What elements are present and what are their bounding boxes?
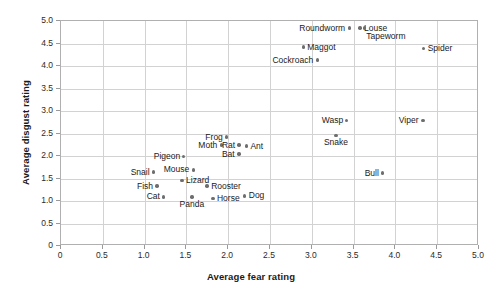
data-point-label: Panda	[180, 200, 205, 209]
data-point-label: Roundworm	[299, 24, 345, 33]
data-point-label: Dog	[249, 191, 265, 200]
data-point-label: Ant	[250, 142, 263, 151]
x-axis-tick-label: 0	[40, 250, 80, 260]
x-axis-tick-mark	[353, 245, 354, 249]
y-axis-tick-label: 2.0	[19, 150, 53, 160]
y-axis-tick-mark	[56, 110, 60, 111]
gridline-horizontal	[61, 44, 477, 45]
y-axis-tick-mark	[56, 245, 60, 246]
y-axis-tick-label: 3.0	[19, 105, 53, 115]
y-axis-tick-mark	[56, 88, 60, 89]
y-axis-tick-mark	[56, 178, 60, 179]
data-point	[316, 58, 319, 61]
x-axis-tick-mark	[436, 245, 437, 249]
y-axis-tick-label: 5.0	[19, 15, 53, 25]
data-point-label: Spider	[428, 44, 453, 53]
gridline-vertical	[354, 21, 355, 244]
data-point-label: Bat	[222, 150, 235, 159]
data-point	[245, 144, 248, 147]
y-axis-tick-label: 1.0	[19, 195, 53, 205]
y-axis-tick-mark	[56, 200, 60, 201]
data-point	[348, 26, 351, 29]
data-point-label: Cat	[147, 192, 160, 201]
x-axis-tick-mark	[311, 245, 312, 249]
data-point	[211, 197, 214, 200]
y-axis-tick-mark	[56, 20, 60, 21]
plot-area	[60, 20, 478, 245]
gridline-horizontal	[61, 156, 477, 157]
y-axis-tick-label: 4.0	[19, 60, 53, 70]
gridline-vertical	[437, 21, 438, 244]
data-point	[237, 152, 240, 155]
gridline-horizontal	[61, 201, 477, 202]
gridline-horizontal	[61, 224, 477, 225]
x-axis-tick-mark	[269, 245, 270, 249]
gridline-vertical	[145, 21, 146, 244]
gridline-vertical	[186, 21, 187, 244]
gridline-horizontal	[61, 134, 477, 135]
x-axis-tick-label: 4.5	[416, 250, 456, 260]
x-axis-tick-label: 2.0	[207, 250, 247, 260]
data-point	[155, 184, 158, 187]
data-point	[358, 26, 361, 29]
gridline-vertical	[103, 21, 104, 244]
data-point-label: Bull	[365, 169, 379, 178]
x-axis-tick-label: 4.0	[374, 250, 414, 260]
x-axis-tick-label: 3.0	[291, 250, 331, 260]
data-point	[237, 143, 240, 146]
x-axis-tick-mark	[227, 245, 228, 249]
x-axis-tick-mark	[478, 245, 479, 249]
y-axis-tick-mark	[56, 43, 60, 44]
data-point-label: Viper	[399, 116, 419, 125]
data-point-label: Wasp	[322, 116, 343, 125]
gridline-horizontal	[61, 66, 477, 67]
x-axis-tick-mark	[102, 245, 103, 249]
data-point	[225, 135, 228, 138]
x-axis-tick-mark	[185, 245, 186, 249]
y-axis-tick-mark	[56, 155, 60, 156]
y-axis-tick-mark	[56, 65, 60, 66]
gridline-horizontal	[61, 89, 477, 90]
y-axis-tick-label: 0.5	[19, 218, 53, 228]
data-point-label: Horse	[217, 194, 240, 203]
y-axis-tick-label: 0	[19, 240, 53, 250]
x-axis-tick-label: 2.5	[249, 250, 289, 260]
data-point-label: Mouse	[164, 165, 190, 174]
y-axis-tick-mark	[56, 133, 60, 134]
x-axis-tick-label: 1.5	[165, 250, 205, 260]
y-axis-tick-label: 1.5	[19, 173, 53, 183]
x-axis-tick-label: 0.5	[82, 250, 122, 260]
data-point	[205, 184, 208, 187]
gridline-vertical	[395, 21, 396, 244]
data-point-label: Maggot	[307, 43, 335, 52]
data-point-label: Rooster	[211, 182, 241, 191]
gridline-horizontal	[61, 111, 477, 112]
x-axis-tick-label: 3.5	[333, 250, 373, 260]
data-point	[302, 45, 305, 48]
x-axis-tick-mark	[144, 245, 145, 249]
gridline-vertical	[270, 21, 271, 244]
data-point	[180, 179, 183, 182]
data-point	[162, 195, 165, 198]
scatter-chart-figure: Average disgust rating Average fear rati…	[0, 0, 502, 296]
gridline-horizontal	[61, 179, 477, 180]
x-axis-tick-label: 5.0	[458, 250, 498, 260]
y-axis-tick-label: 2.5	[19, 128, 53, 138]
gridline-vertical	[228, 21, 229, 244]
x-axis-tick-label: 1.0	[124, 250, 164, 260]
data-point-label: Fish	[137, 182, 153, 191]
x-axis-tick-mark	[394, 245, 395, 249]
data-point-label: Tapeworm	[366, 32, 405, 41]
x-axis-tick-mark	[60, 245, 61, 249]
data-point-label: Snake	[324, 138, 348, 147]
data-point-label: Pigeon	[154, 152, 180, 161]
data-point	[363, 26, 366, 29]
y-axis-tick-label: 4.5	[19, 38, 53, 48]
data-point-label: Lizard	[186, 176, 209, 185]
x-axis-title: Average fear rating	[0, 271, 502, 282]
data-point-label: Cockroach	[272, 56, 313, 65]
data-point-label: Moth	[198, 141, 217, 150]
data-point-label: Snail	[131, 168, 150, 177]
y-axis-tick-mark	[56, 223, 60, 224]
y-axis-tick-label: 3.5	[19, 83, 53, 93]
